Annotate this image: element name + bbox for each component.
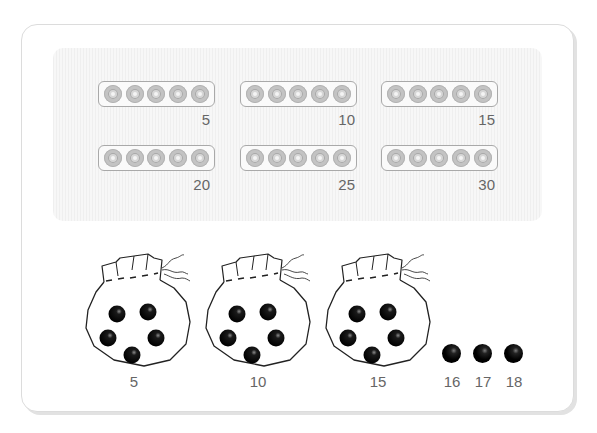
gray-bead-icon <box>430 85 448 103</box>
bag-of-five-beads-icon <box>202 252 314 370</box>
gray-bead-icon <box>409 85 427 103</box>
gray-bead-icon <box>169 85 187 103</box>
bead-strip <box>98 145 215 171</box>
gray-bead-icon <box>191 85 209 103</box>
gray-bead-icon <box>126 149 144 167</box>
gray-bead-icon <box>452 149 470 167</box>
bag-count-label: 10 <box>238 373 278 390</box>
bead-bag <box>322 252 434 370</box>
strip-count-label: 30 <box>455 176 495 193</box>
black-bead-icon <box>504 344 523 363</box>
gray-bead-icon <box>409 149 427 167</box>
gray-bead-icon <box>289 149 307 167</box>
gray-bead-icon <box>333 149 351 167</box>
gray-bead-icon <box>126 85 144 103</box>
gray-bead-icon <box>289 85 307 103</box>
gray-bead-icon <box>104 85 122 103</box>
loose-bead-count-label: 17 <box>470 373 496 390</box>
bead-strip <box>240 81 357 107</box>
black-bead-icon <box>442 344 461 363</box>
gray-bead-icon <box>311 85 329 103</box>
strip-count-label: 5 <box>170 111 210 128</box>
gray-bead-icon <box>246 85 264 103</box>
bead-bag <box>82 252 194 370</box>
gray-bead-icon <box>147 149 165 167</box>
gray-bead-icon <box>147 85 165 103</box>
bag-of-five-beads-icon <box>322 252 434 370</box>
bead-strip <box>381 145 498 171</box>
strip-count-label: 25 <box>315 176 355 193</box>
gray-bead-icon <box>311 149 329 167</box>
gray-bead-icon <box>268 85 286 103</box>
gray-bead-icon <box>169 149 187 167</box>
bag-of-five-beads-icon <box>82 252 194 370</box>
gray-bead-icon <box>387 85 405 103</box>
bead-strips-panel <box>53 48 542 221</box>
gray-bead-icon <box>387 149 405 167</box>
bag-count-label: 15 <box>358 373 398 390</box>
gray-bead-icon <box>452 85 470 103</box>
gray-bead-icon <box>474 85 492 103</box>
bead-strip <box>381 81 498 107</box>
bead-strip <box>98 81 215 107</box>
bead-bag <box>202 252 314 370</box>
strip-count-label: 10 <box>315 111 355 128</box>
bead-strip <box>240 145 357 171</box>
gray-bead-icon <box>430 149 448 167</box>
gray-bead-icon <box>474 149 492 167</box>
loose-bead-count-label: 16 <box>439 373 465 390</box>
gray-bead-icon <box>104 149 122 167</box>
gray-bead-icon <box>246 149 264 167</box>
bag-count-label: 5 <box>114 373 154 390</box>
strip-count-label: 20 <box>170 176 210 193</box>
loose-bead-count-label: 18 <box>501 373 527 390</box>
gray-bead-icon <box>191 149 209 167</box>
gray-bead-icon <box>333 85 351 103</box>
gray-bead-icon <box>268 149 286 167</box>
strip-count-label: 15 <box>455 111 495 128</box>
black-bead-icon <box>473 344 492 363</box>
